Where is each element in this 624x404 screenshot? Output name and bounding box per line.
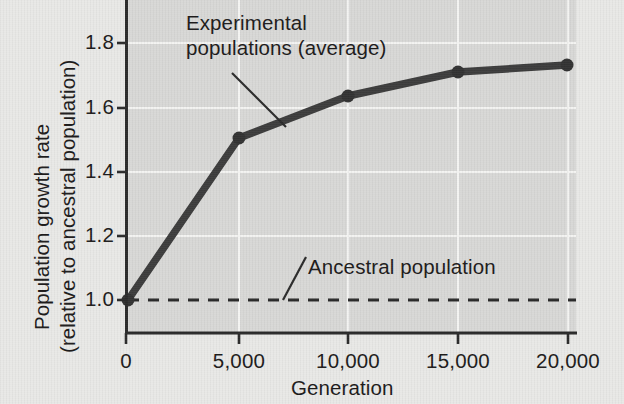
x-axis-ticks [126,333,568,344]
y-axis-title-line-1: Population growth rate [30,124,54,330]
data-point-15000 [452,66,465,79]
experimental-annotation-line-2: populations (average) [186,35,386,60]
experimental-annotation-line-1: Experimental [186,10,386,35]
x-tick-label-5000: 5,000 [189,349,289,373]
experimental-annotation: Experimental populations (average) [186,10,386,60]
y-axis-title: Population growth rate (relative to ance… [0,0,120,360]
x-axis-title: Generation [291,376,393,400]
x-tick-label-20000: 20,000 [513,349,623,373]
figure-chart-population-growth-rate: 1.0 1.2 1.4 1.6 1.8 0 5,000 10,000 15,00… [0,0,624,404]
data-point-5000 [233,132,246,145]
y-axis-title-line-2: (relative to ancestral population) [56,60,80,353]
x-tick-label-10000: 10,000 [293,349,403,373]
data-point-10000 [342,90,355,103]
ancestral-annotation: Ancestral population [308,254,496,279]
ancestral-annotation-line-1: Ancestral population [308,254,496,279]
x-tick-label-15000: 15,000 [403,349,513,373]
data-point-20000 [561,59,574,72]
